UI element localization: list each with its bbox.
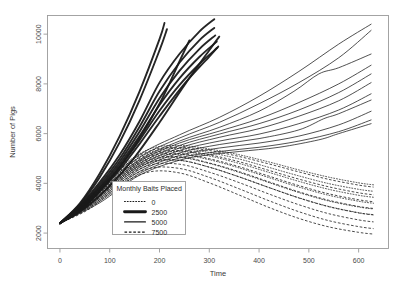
y-tick-label-6000: 6000 <box>35 126 42 142</box>
x-tick-label-300: 300 <box>203 257 215 264</box>
chart-legend[interactable]: Monthly Baits Placed0250050007500 <box>113 182 186 237</box>
x-tick-label-100: 100 <box>104 257 116 264</box>
x-tick-label-500: 500 <box>303 257 315 264</box>
series-line-5000-21 <box>60 83 371 224</box>
legend-label-0: 0 <box>152 199 156 206</box>
x-axis-title: Time <box>210 269 226 278</box>
x-tick-label-200: 200 <box>154 257 166 264</box>
series-line-5000-22 <box>60 94 371 223</box>
legend-label-2500: 2500 <box>152 209 168 216</box>
legend-label-7500: 7500 <box>152 229 168 236</box>
series-layer <box>60 19 374 234</box>
legend-label-5000: 5000 <box>152 219 168 226</box>
series-group <box>60 19 374 234</box>
y-tick-label-4000: 4000 <box>35 175 42 191</box>
x-tick-label-0: 0 <box>58 257 62 264</box>
plot-svg: 0100200300400500600200040006000800010000… <box>0 0 404 291</box>
legend-title: Monthly Baits Placed <box>117 185 182 193</box>
x-tick-label-600: 600 <box>353 257 365 264</box>
chart-figure: 0100200300400500600200040006000800010000… <box>0 0 404 291</box>
y-tick-label-2000: 2000 <box>35 225 42 241</box>
y-tick-label-10000: 10000 <box>35 24 42 44</box>
y-tick-label-8000: 8000 <box>35 76 42 92</box>
y-axis-title: Number of Pigs <box>8 106 17 158</box>
x-tick-label-400: 400 <box>253 257 265 264</box>
